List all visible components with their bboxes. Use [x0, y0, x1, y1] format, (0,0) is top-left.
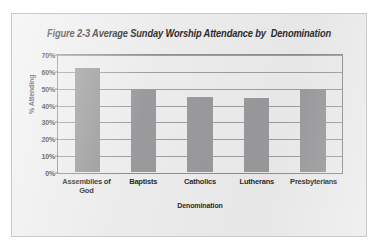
- y-axis-tick-mark: [55, 156, 58, 157]
- bars-layer: [59, 56, 341, 172]
- x-axis-tick-labels: Assemblies ofGodBaptistsCatholicsLuthera…: [58, 177, 342, 195]
- y-axis-tick-label: 10%: [42, 153, 55, 160]
- bar[interactable]: [131, 89, 156, 172]
- y-axis-tick-mark: [55, 173, 58, 174]
- x-axis-tick-label-line: Lutherans: [228, 177, 285, 186]
- y-axis-tick-label: 20%: [42, 136, 55, 143]
- y-axis-tick-label: 40%: [42, 102, 55, 109]
- y-axis-tick-label: 50%: [42, 85, 55, 92]
- x-axis-tick-label-line: God: [58, 186, 115, 195]
- bar-slot: [228, 56, 284, 172]
- bar[interactable]: [75, 68, 100, 172]
- x-axis-tick-label: Presbyterians: [285, 177, 342, 195]
- x-axis-tick-label-line: Presbyterians: [285, 177, 342, 186]
- x-axis-tick-label-line: Baptists: [115, 177, 172, 186]
- y-axis-tick-mark: [55, 122, 58, 123]
- y-axis-tick-label: 60%: [42, 68, 55, 75]
- bar-slot: [115, 56, 171, 172]
- x-axis-tick-label-line: Catholics: [172, 177, 229, 186]
- y-axis-tick-mark: [55, 71, 58, 72]
- y-axis-tick-mark: [55, 105, 58, 106]
- y-axis-tick-label: 70%: [42, 52, 55, 59]
- y-axis-title: % Attending: [28, 75, 35, 114]
- bar[interactable]: [300, 89, 325, 172]
- bar[interactable]: [244, 98, 269, 172]
- x-axis-tick-label-line: Assemblies of: [58, 177, 115, 186]
- figure-frame: Figure 2-3 Average Sunday Worship Attend…: [11, 13, 367, 237]
- y-axis-tick-mark: [55, 88, 58, 89]
- chart-title: Figure 2-3 Average Sunday Worship Attend…: [24, 28, 353, 39]
- y-axis-tick-label: 0%: [45, 170, 55, 177]
- x-axis-tick-label: Lutherans: [228, 177, 285, 195]
- bar-slot: [172, 56, 228, 172]
- x-axis-tick-label: Catholics: [172, 177, 229, 195]
- plot-area: 0%10%20%30%40%50%60%70%: [57, 54, 343, 174]
- x-axis-title: Denomination: [57, 202, 343, 209]
- y-axis-tick-mark: [55, 139, 58, 140]
- x-axis-tick-label: Assemblies ofGod: [58, 177, 115, 195]
- y-axis-tick-label: 30%: [42, 119, 55, 126]
- y-axis-tick-mark: [55, 55, 58, 56]
- bar-slot: [59, 56, 115, 172]
- x-axis-tick-label: Baptists: [115, 177, 172, 195]
- bar[interactable]: [187, 97, 212, 172]
- bar-slot: [285, 56, 341, 172]
